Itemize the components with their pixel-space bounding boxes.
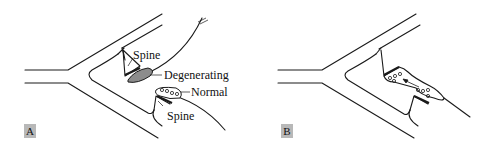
panel-a: Spine Degenerating Normal Spine A <box>0 0 244 150</box>
label-spine-top: Spine <box>133 49 160 61</box>
label-normal: Normal <box>191 86 228 98</box>
panel-badge-b: B <box>281 124 293 138</box>
label-degenerating: Degenerating <box>164 69 229 81</box>
panel-badge-a: A <box>24 124 36 138</box>
degenerating-terminal <box>128 68 153 82</box>
panel-b: B <box>244 0 488 150</box>
label-spine-bottom: Spine <box>167 110 194 122</box>
vesicles-icon <box>388 72 429 97</box>
arrow-icon <box>403 79 419 87</box>
